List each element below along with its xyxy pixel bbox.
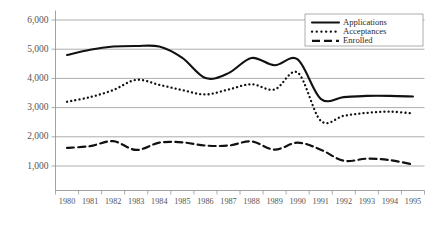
- series-line-acceptances: [67, 72, 413, 123]
- x-axis-label-1981: 1981: [82, 197, 98, 206]
- x-axis-label-1993: 1993: [359, 197, 375, 206]
- x-axis-label-1983: 1983: [128, 197, 144, 206]
- line-chart: 6,0005,0004,0003,0002,0001,000 198019811…: [0, 0, 446, 227]
- y-axis-labels: 6,0005,0004,0003,0002,0001,000: [27, 15, 49, 171]
- y-axis-label: 3,000: [27, 102, 49, 112]
- chart-legend: ApplicationsAcceptancesEnrolled: [305, 14, 423, 46]
- x-axis-label-1980: 1980: [59, 197, 75, 206]
- chart-container: 6,0005,0004,0003,0002,0001,000 198019811…: [0, 0, 446, 227]
- x-axis-label-1995: 1995: [405, 197, 421, 206]
- x-axis-label-1989: 1989: [266, 197, 282, 206]
- y-axis-label: 5,000: [27, 44, 49, 54]
- x-axis-label-1988: 1988: [243, 197, 259, 206]
- x-axis-label-1987: 1987: [220, 197, 236, 206]
- x-axis-label-1986: 1986: [197, 197, 213, 206]
- y-axis-label: 2,000: [27, 131, 49, 141]
- x-axis-label-1991: 1991: [313, 197, 329, 206]
- x-axis-label-1982: 1982: [105, 197, 121, 206]
- y-axis-label: 4,000: [27, 73, 49, 83]
- x-axis-label-1985: 1985: [174, 197, 190, 206]
- x-axis-label-1992: 1992: [336, 197, 352, 206]
- y-axis-label: 1,000: [27, 161, 49, 171]
- data-series-group: [67, 46, 413, 165]
- legend-label-enrolled: Enrolled: [343, 35, 373, 45]
- series-line-applications: [67, 46, 413, 102]
- y-axis-tick-marks: [52, 20, 56, 166]
- series-line-enrolled: [67, 141, 413, 164]
- x-axis-label-1990: 1990: [289, 197, 305, 206]
- y-axis-label: 6,000: [27, 15, 49, 25]
- x-axis-tick-marks: [56, 191, 425, 195]
- x-axis-label-1984: 1984: [151, 197, 167, 206]
- x-axis-labels: 1980198119821983198419851986198719881989…: [59, 197, 421, 206]
- x-axis-label-1994: 1994: [382, 197, 398, 206]
